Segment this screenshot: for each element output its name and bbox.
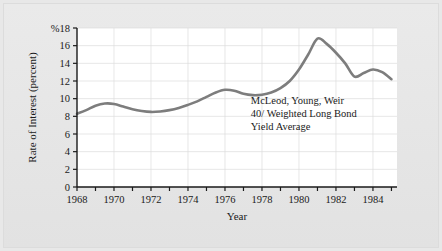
series-annotation-line: McLeod, Young, Weir bbox=[251, 95, 345, 106]
y-tick-label: 10 bbox=[60, 93, 71, 104]
y-tick-label: 6 bbox=[65, 129, 70, 140]
y-tick-label: %18 bbox=[51, 23, 70, 34]
series-annotation-line: 40/ Weighted Long Bond bbox=[251, 108, 358, 119]
y-tick-label: 2 bbox=[65, 164, 70, 175]
x-tick-label: 1968 bbox=[67, 194, 88, 205]
y-tick-label: 4 bbox=[65, 146, 71, 157]
y-tick-label: 0 bbox=[65, 182, 70, 193]
chart-figure: 0246810121416%18196819701972197419761978… bbox=[0, 0, 442, 251]
x-tick-label: 1980 bbox=[288, 194, 309, 205]
x-axis-title: Year bbox=[227, 210, 248, 222]
x-tick-label: 1978 bbox=[251, 194, 272, 205]
y-tick-label: 16 bbox=[60, 40, 71, 51]
x-tick-label: 1982 bbox=[325, 194, 346, 205]
y-axis-title: Rate of Interest (percent) bbox=[26, 52, 39, 163]
x-tick-label: 1974 bbox=[177, 194, 199, 205]
y-tick-label: 8 bbox=[65, 111, 70, 122]
y-tick-label: 12 bbox=[60, 76, 71, 87]
x-tick-label: 1984 bbox=[362, 194, 384, 205]
x-tick-label: 1972 bbox=[140, 194, 161, 205]
y-tick-label: 14 bbox=[60, 58, 71, 69]
interest-rate-line-chart: 0246810121416%18196819701972197419761978… bbox=[0, 0, 442, 251]
x-tick-label: 1970 bbox=[103, 194, 124, 205]
series-annotation-line: Yield Average bbox=[251, 121, 311, 132]
x-tick-label: 1976 bbox=[214, 194, 235, 205]
